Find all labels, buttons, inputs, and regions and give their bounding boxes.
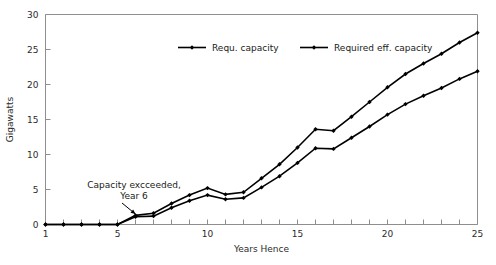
x-axis-title: Years Hence bbox=[233, 244, 290, 254]
line-chart: 051015202530Gigawatts1510152025Years Hen… bbox=[0, 0, 496, 265]
annotation-line-2: Year 6 bbox=[119, 191, 148, 201]
y-axis-tick-label: 5 bbox=[33, 185, 39, 195]
series-1 bbox=[43, 31, 479, 227]
annotation-line-1: Capacity excceeded, bbox=[87, 180, 181, 190]
chart-legend: Requ. capacityRequired eff. capacity bbox=[178, 43, 433, 53]
x-axis-tick-label: 20 bbox=[382, 229, 394, 239]
series-data-point bbox=[205, 186, 209, 190]
legend-label: Required eff. capacity bbox=[334, 43, 433, 53]
y-axis: 051015202530 bbox=[27, 10, 50, 230]
series-data-point bbox=[187, 199, 191, 203]
series-data-point bbox=[205, 193, 209, 197]
series-data-point bbox=[223, 192, 227, 196]
legend-entry-2: Required eff. capacity bbox=[300, 43, 433, 53]
series-line bbox=[46, 33, 478, 225]
legend-marker bbox=[312, 45, 316, 49]
chart-container: 051015202530Gigawatts1510152025Years Hen… bbox=[0, 0, 496, 265]
x-axis-tick-label: 25 bbox=[472, 229, 483, 239]
x-axis-tick-label: 10 bbox=[202, 229, 214, 239]
y-axis-tick-label: 20 bbox=[27, 80, 39, 90]
series-data-point bbox=[223, 197, 227, 201]
legend-entry-1: Requ. capacity bbox=[178, 43, 279, 53]
y-axis-tick-label: 15 bbox=[27, 115, 38, 125]
series-line bbox=[46, 71, 478, 224]
legend-marker bbox=[190, 45, 194, 49]
series-2 bbox=[43, 69, 479, 227]
capacity-exceeded-note: Capacity excceeded,Year 6 bbox=[87, 180, 181, 214]
series-data-point bbox=[97, 222, 101, 226]
y-axis-tick-label: 10 bbox=[27, 150, 39, 160]
x-axis: 1510152025 bbox=[43, 220, 484, 239]
series-data-point bbox=[475, 69, 479, 73]
series-data-point bbox=[79, 222, 83, 226]
x-axis-tick-label: 5 bbox=[115, 229, 121, 239]
series-data-point bbox=[61, 222, 65, 226]
y-axis-tick-label: 30 bbox=[27, 10, 39, 20]
x-axis-tick-label: 15 bbox=[292, 229, 303, 239]
y-axis-tick-label: 0 bbox=[33, 220, 39, 230]
x-axis-tick-label: 1 bbox=[43, 229, 49, 239]
y-axis-title: Gigawatts bbox=[5, 97, 15, 143]
legend-label: Requ. capacity bbox=[212, 43, 279, 53]
series-data-point bbox=[43, 222, 47, 226]
y-axis-tick-label: 25 bbox=[27, 45, 38, 55]
